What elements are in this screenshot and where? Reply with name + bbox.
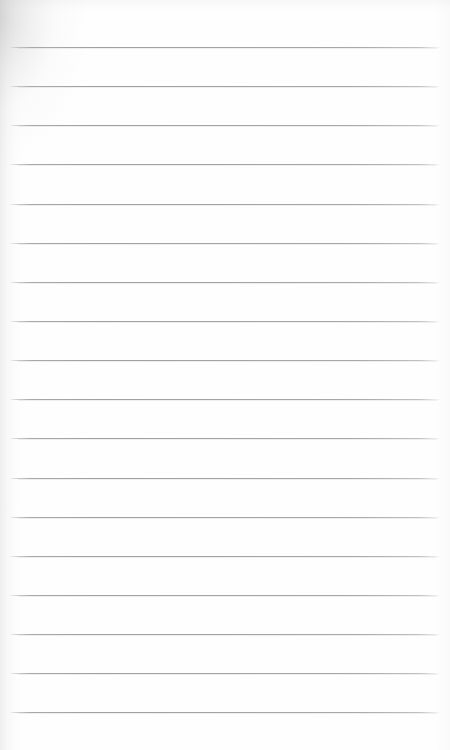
ruled-line — [9, 595, 441, 596]
ruled-line — [9, 360, 441, 361]
notebook-page — [0, 0, 450, 750]
ruled-line — [9, 438, 441, 439]
ruled-line — [9, 556, 441, 557]
ruled-line — [9, 204, 441, 205]
ruled-line — [9, 321, 441, 322]
ruled-line — [9, 517, 441, 518]
ruled-lines-layer — [0, 0, 450, 750]
ruled-line — [9, 125, 441, 126]
ruled-line — [9, 86, 441, 87]
ruled-line — [9, 164, 441, 165]
ruled-line — [9, 712, 441, 713]
ruled-line — [9, 634, 441, 635]
ruled-line — [9, 47, 441, 48]
ruled-line — [9, 282, 441, 283]
ruled-line — [9, 478, 441, 479]
ruled-line — [9, 399, 441, 400]
ruled-line — [9, 673, 441, 674]
ruled-line — [9, 243, 441, 244]
